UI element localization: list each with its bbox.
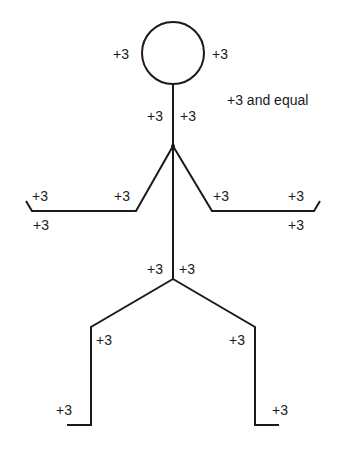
- label-left-hand-top: +3: [32, 189, 48, 203]
- label-left-elbow: +3: [114, 189, 130, 203]
- label-note: +3 and equal: [227, 93, 308, 107]
- label-left-foot: +3: [56, 403, 72, 417]
- label-neck-right: +3: [180, 109, 196, 123]
- label-right-foot: +3: [272, 403, 288, 417]
- label-head-left: +3: [113, 47, 129, 61]
- label-right-hand-bottom: +3: [288, 218, 304, 232]
- right-leg: [173, 279, 279, 425]
- head: [142, 22, 204, 84]
- stick-figure-diagram: +3 +3 +3 and equal +3 +3 +3 +3 +3 +3 +3 …: [0, 0, 345, 451]
- label-neck-left: +3: [147, 109, 163, 123]
- label-right-elbow: +3: [213, 189, 229, 203]
- left-arm: [26, 146, 173, 211]
- label-left-knee: +3: [96, 333, 112, 347]
- label-head-right: +3: [212, 47, 228, 61]
- label-hip-left: +3: [147, 262, 163, 276]
- label-right-knee: +3: [229, 333, 245, 347]
- label-hip-right: +3: [179, 262, 195, 276]
- left-leg: [67, 279, 173, 425]
- shoulder-joint: [171, 144, 175, 148]
- label-left-hand-bottom: +3: [33, 218, 49, 232]
- label-right-hand-top: +3: [288, 189, 304, 203]
